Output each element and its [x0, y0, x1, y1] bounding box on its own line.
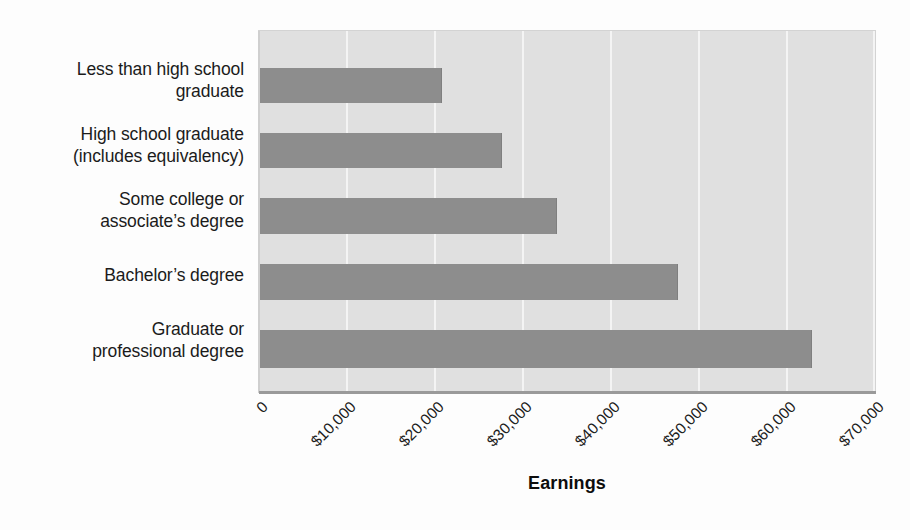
category-label-line: graduate — [0, 80, 244, 102]
category-label-line: (includes equivalency) — [0, 145, 244, 167]
category-label-less-than-high-school: Less than high school graduate — [0, 58, 244, 102]
y-axis-category-labels: Less than high school graduate High scho… — [0, 27, 252, 393]
category-label-line: Some college or — [0, 188, 244, 210]
x-tick-text: $50,000 — [659, 398, 711, 450]
bar-less-than-high-school — [259, 68, 442, 103]
x-axis-tick-labels: 0 $10,000 $20,000 $30,000 $40,000 $50,00… — [259, 392, 875, 472]
x-tick-text: $10,000 — [307, 398, 359, 450]
bar-graduate-professional — [259, 330, 812, 368]
x-tick-text: $60,000 — [747, 398, 799, 450]
category-label-graduate-professional: Graduate or professional degree — [0, 318, 244, 362]
x-tick-text: $70,000 — [835, 398, 887, 450]
bar-bachelors-degree — [259, 264, 678, 300]
category-label-line: Less than high school — [0, 58, 244, 80]
category-label-some-college: Some college or associate’s degree — [0, 188, 244, 232]
gridline-70000 — [873, 31, 875, 392]
plot-inner — [259, 31, 875, 392]
category-label-line: Bachelor’s degree — [0, 264, 244, 286]
x-tick-text: 0 — [253, 398, 272, 417]
category-label-line: professional degree — [0, 340, 244, 362]
x-axis-title: Earnings — [259, 473, 875, 494]
category-label-line: associate’s degree — [0, 210, 244, 232]
x-tick-text: $20,000 — [395, 398, 447, 450]
category-label-line: High school graduate — [0, 123, 244, 145]
category-label-bachelors-degree: Bachelor’s degree — [0, 264, 244, 286]
x-tick-text: $30,000 — [483, 398, 535, 450]
chart-figure: Less than high school graduate High scho… — [0, 0, 910, 530]
x-tick-text: $40,000 — [571, 398, 623, 450]
y-axis-line — [258, 31, 260, 393]
plot-area — [259, 31, 875, 392]
bar-some-college — [259, 198, 557, 234]
category-label-line: Graduate or — [0, 318, 244, 340]
category-label-high-school-graduate: High school graduate (includes equivalen… — [0, 123, 244, 167]
bar-high-school-graduate — [259, 133, 502, 168]
